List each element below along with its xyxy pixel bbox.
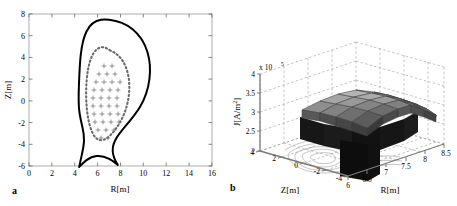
figure-container: a [0, 0, 457, 206]
panel-b-y-ticks [256, 151, 348, 177]
exponent-power: 5 [281, 61, 284, 67]
z-axis-label-close: ] [232, 98, 242, 101]
panel-b-y-axis-label: Z[m] [281, 185, 300, 195]
panel-b-x-axis-label: R[m] [381, 185, 400, 195]
z-axis-label-main: J[A/m [232, 104, 242, 127]
panel-b-letter: b [230, 183, 236, 193]
x-tick-label: 4 [73, 169, 77, 178]
x-tick-label: 8 [423, 155, 427, 164]
x-tick-label: 7.5 [401, 162, 411, 171]
y-tick-label: 8 [21, 10, 25, 19]
y-tick-label: 0 [294, 161, 298, 170]
y-tick-label: -2 [18, 119, 25, 128]
y-tick-label: 0 [21, 97, 25, 106]
svg-text:J[A/m2]: J[A/m2] [232, 98, 242, 127]
y-tick-label: 2 [21, 75, 25, 84]
panel-b-plot: 4 3.5 3 2.5 2 x 10 5 J[A/m2] [228, 0, 457, 206]
y-tick-label: 2 [272, 154, 276, 163]
panel-b-z-axis-label: J[A/m2] [232, 98, 242, 127]
x-tick-label: 12 [162, 169, 170, 178]
y-tick-label: -2 [314, 167, 320, 176]
z-tick-label: 3.5 [246, 89, 256, 98]
x-tick-label: 10 [139, 169, 147, 178]
z-tick-label: 2.5 [246, 127, 256, 136]
z-tick-label: 4 [251, 70, 255, 79]
panel-a: a [0, 0, 228, 206]
panel-a-y-axis-label: Z[m] [3, 81, 13, 100]
y-tick-label: 6 [21, 32, 25, 41]
y-tick-label: -4 [18, 140, 25, 149]
x-tick-label: 6 [96, 169, 100, 178]
y-tick-label: -4 [336, 174, 342, 183]
x-tick-label: 0 [27, 169, 31, 178]
x-tick-label: 6 [346, 181, 350, 190]
panel-b-z-tick-labels: 4 3.5 3 2.5 2 [246, 70, 256, 156]
x-tick-label: 14 [185, 169, 193, 178]
panel-b-y-tick-labels: 4 2 0 -2 -4 [250, 148, 342, 183]
x-tick-label: 8.5 [441, 149, 451, 158]
panel-a-plot: 0 2 4 6 8 10 12 14 16 8 6 4 2 0 -2 -4 -6 [0, 0, 228, 206]
panel-b-exponent-multiplier: x 10 5 [259, 61, 284, 72]
x-tick-label: 16 [208, 169, 216, 178]
panel-b: b [228, 0, 457, 206]
panel-a-y-tick-labels: 8 6 4 2 0 -2 -4 -6 [18, 10, 25, 171]
x-tick-label: 7 [384, 168, 388, 177]
panel-a-letter: a [12, 186, 17, 196]
x-tick-label: 8 [119, 169, 123, 178]
y-tick-label: 4 [250, 148, 254, 157]
panel-a-x-axis-label: R[m] [111, 184, 130, 194]
panel-a-axes-frame [29, 14, 212, 166]
y-tick-label: -6 [18, 162, 25, 171]
y-tick-label: 4 [21, 53, 25, 62]
x-tick-label: 6.5 [362, 175, 372, 184]
x-tick-label: 2 [50, 169, 54, 178]
z-tick-label: 3 [251, 108, 255, 117]
exponent-prefix: x 10 [259, 63, 272, 72]
panel-a-x-tick-labels: 0 2 4 6 8 10 12 14 16 [27, 169, 216, 178]
